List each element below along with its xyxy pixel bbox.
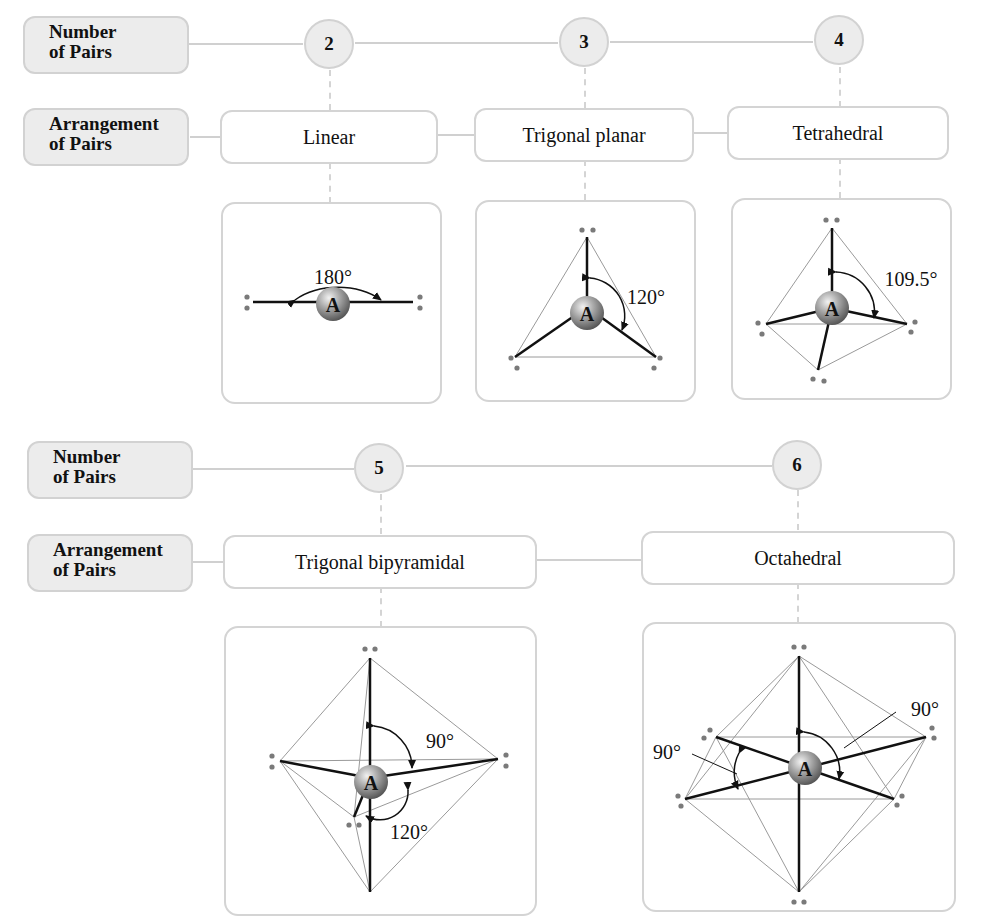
- label-line: Arrangement: [53, 540, 191, 560]
- dashed-connector: [839, 67, 841, 107]
- dashed-connector: [380, 494, 382, 534]
- label-line: of Pairs: [49, 134, 187, 154]
- svg-text:A: A: [580, 303, 595, 325]
- connector-line: [190, 136, 220, 138]
- trigonal-planar-geometry-diagram: 120° A: [477, 202, 698, 404]
- row-label-arrangement-of-pairs: Arrangement of Pairs: [23, 108, 189, 166]
- octahedral-diagram-panel: 90° 90° A: [642, 622, 956, 912]
- dashed-connector: [584, 160, 586, 200]
- trigonal-planar-diagram-panel: 120° A: [475, 200, 696, 402]
- angle-label: 120°: [390, 821, 428, 843]
- svg-text:A: A: [326, 294, 341, 316]
- tetrahedral-diagram-panel: 109.5° A: [731, 198, 952, 400]
- pair-count-badge: 3: [559, 17, 609, 67]
- svg-text:A: A: [798, 758, 813, 780]
- geometry-name-box: Octahedral: [641, 531, 955, 585]
- svg-text:A: A: [364, 772, 379, 794]
- connector-line: [193, 561, 223, 563]
- angle-label: 90°: [653, 741, 681, 763]
- angle-label: 90°: [911, 698, 939, 720]
- connector-line: [610, 41, 813, 43]
- dashed-connector: [329, 163, 331, 203]
- label-line: Number: [49, 22, 187, 42]
- geometry-name-box: Trigonal planar: [474, 108, 694, 162]
- dashed-connector: [329, 70, 331, 110]
- angle-label: 120°: [627, 286, 665, 308]
- label-line: Number: [53, 447, 191, 467]
- svg-text:A: A: [825, 298, 840, 320]
- connector-line: [406, 465, 772, 467]
- octahedral-geometry-diagram: 90° 90° A: [644, 624, 958, 914]
- angle-label: 90°: [426, 730, 454, 752]
- label-line: of Pairs: [49, 42, 187, 62]
- dashed-connector: [797, 490, 799, 530]
- label-line: of Pairs: [53, 467, 191, 487]
- trigonal-bipyramidal-geometry-diagram: 90° 120° A: [226, 628, 539, 918]
- geometry-name-box: Tetrahedral: [727, 106, 949, 160]
- trigonal-bipyramidal-diagram-panel: 90° 120° A: [224, 626, 537, 916]
- row-label-number-of-pairs: Number of Pairs: [27, 441, 193, 499]
- row-label-number-of-pairs: Number of Pairs: [23, 16, 189, 74]
- dashed-connector: [839, 158, 841, 198]
- connector-line: [537, 559, 641, 561]
- geometry-name-box: Linear: [220, 110, 438, 164]
- linear-diagram-panel: 180° A: [221, 202, 442, 404]
- connector-line: [694, 132, 727, 134]
- label-line: Arrangement: [49, 114, 187, 134]
- connector-line: [188, 43, 303, 45]
- connector-line: [355, 42, 558, 44]
- angle-label: 180°: [314, 266, 352, 288]
- linear-geometry-diagram: 180° A: [223, 204, 444, 406]
- dashed-connector: [584, 68, 586, 108]
- pair-count-badge: 6: [772, 440, 822, 490]
- dashed-connector: [797, 583, 799, 623]
- label-line: of Pairs: [53, 560, 191, 580]
- connector-line: [437, 134, 474, 136]
- tetrahedral-geometry-diagram: 109.5° A: [733, 200, 954, 402]
- connector-line: [191, 468, 354, 470]
- pair-count-badge: 4: [814, 15, 864, 65]
- dashed-connector: [380, 587, 382, 627]
- geometry-name-box: Trigonal bipyramidal: [223, 535, 537, 589]
- pair-count-badge: 5: [354, 443, 404, 493]
- pair-count-badge: 2: [304, 19, 354, 69]
- angle-label: 109.5°: [885, 268, 938, 290]
- row-label-arrangement-of-pairs: Arrangement of Pairs: [27, 534, 193, 592]
